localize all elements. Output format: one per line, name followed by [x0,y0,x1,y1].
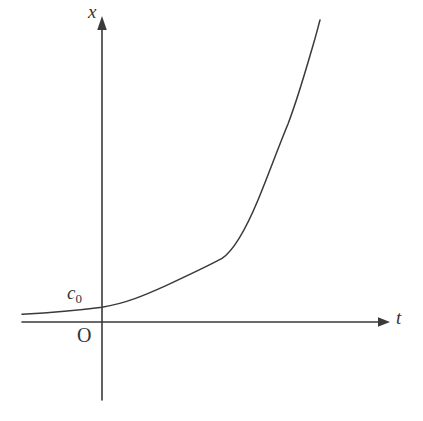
plot-canvas [0,0,423,421]
intercept-label-c0: c0 [67,283,82,305]
exponential-curve [22,20,320,314]
axis-label-x: x [88,2,96,21]
intercept-label-subscript: 0 [75,291,82,306]
arrow-right-icon [378,317,390,327]
exponential-growth-figure: x t c0 O [0,0,423,421]
arrow-up-icon [97,16,107,30]
axis-label-t: t [396,308,401,327]
origin-label: O [77,325,91,345]
